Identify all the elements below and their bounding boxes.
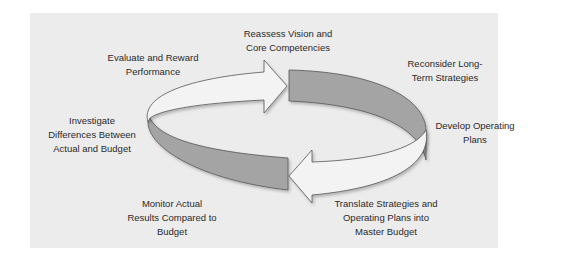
step-develop-operating-plans: Develop Operating Plans <box>420 119 530 147</box>
step-reconsider-strategies: Reconsider Long- Term Strategies <box>390 57 500 85</box>
dark-band-left <box>148 118 288 190</box>
step-evaluate-reward: Evaluate and Reward Performance <box>93 51 213 79</box>
step-investigate-differences: Investigate Differences Between Actual a… <box>30 114 154 156</box>
arrow-bottom-light <box>289 130 427 203</box>
step-reassess-vision: Reassess Vision and Core Competencies <box>228 27 348 55</box>
step-monitor-actual-results: Monitor Actual Results Compared to Budge… <box>112 197 232 239</box>
step-translate-master-budget: Translate Strategies and Operating Plans… <box>316 197 456 239</box>
